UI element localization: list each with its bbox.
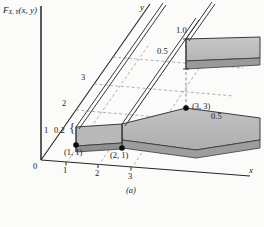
x-tick-2: 2: [95, 169, 99, 178]
data-point-3-3: [183, 105, 189, 111]
point-label-1-1: (1, 1): [64, 148, 82, 157]
y-axis-name: y: [140, 3, 144, 12]
x-tick-0: 0: [33, 162, 37, 171]
figure-3d-joint-cdf: FX, Y(x, y) y x 0 1 2 3 1 2 3 0.2 { 0.5 …: [0, 0, 264, 227]
z-axis-label-sub: X, Y: [9, 9, 19, 15]
level-label-0-5-right: 0.5: [211, 112, 222, 121]
figure-caption: (a): [126, 186, 136, 195]
x-axis: [41, 160, 250, 176]
level-label-0-5-left: 0.5: [157, 47, 168, 56]
x-axis-name: x: [249, 166, 253, 175]
point-label-2-1: (2, 1): [110, 151, 128, 160]
y-tick-3: 3: [81, 73, 85, 82]
x-tick-3: 3: [128, 172, 132, 181]
surface-slab-0-2: [76, 124, 122, 152]
surface-slab-1-0: [186, 37, 260, 69]
level-label-0-2: 0.2: [54, 126, 65, 135]
z-axis-label-args: (x, y): [19, 5, 37, 15]
y-tick-1: 1: [44, 126, 48, 135]
z-axis-label: FX, Y(x, y): [3, 6, 37, 15]
level-label-1-0: 1.0: [176, 26, 187, 35]
level-brace-0-2: {: [69, 121, 75, 134]
y-tick-2: 2: [62, 99, 66, 108]
x-tick-1: 1: [63, 166, 67, 175]
point-label-3-3: (3, 3): [192, 102, 210, 111]
